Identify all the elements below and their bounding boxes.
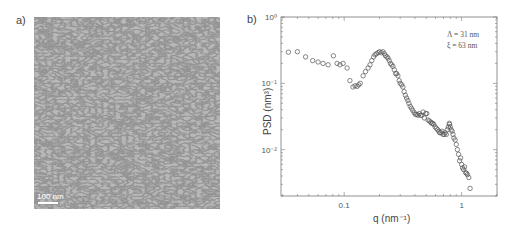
- x-tick-label: 1: [459, 201, 464, 210]
- data-point: [454, 142, 458, 146]
- annotation-lambda: Λ = 31 nm: [447, 30, 479, 39]
- y-tick-label: 10⁻¹: [261, 79, 277, 88]
- data-point: [303, 55, 307, 59]
- data-points: [286, 50, 472, 191]
- data-point: [321, 61, 325, 65]
- data-point: [455, 147, 459, 151]
- y-tick-label: 10⁻²: [261, 146, 277, 155]
- data-point: [458, 156, 462, 160]
- annotation-xi: ξ = 63 nm: [447, 41, 477, 50]
- x-axis-label: q (nm⁻¹): [373, 213, 410, 224]
- data-point: [311, 58, 315, 62]
- data-point: [326, 63, 330, 67]
- data-point: [286, 50, 290, 54]
- psd-chart: 0.1110⁰10⁻¹10⁻² Λ = 31 nm ξ = 63 nm q (n…: [0, 0, 516, 238]
- data-point: [331, 54, 335, 58]
- data-point: [397, 78, 401, 82]
- data-point: [388, 61, 392, 65]
- y-tick-label: 10⁰: [265, 13, 277, 22]
- y-axis-label: PSD (nm³): [262, 88, 273, 135]
- data-point: [361, 74, 365, 78]
- data-point: [468, 186, 472, 190]
- data-point: [348, 78, 352, 82]
- data-point: [345, 66, 349, 70]
- data-point: [295, 50, 299, 54]
- data-point: [316, 60, 320, 64]
- x-tick-label: 0.1: [339, 201, 351, 210]
